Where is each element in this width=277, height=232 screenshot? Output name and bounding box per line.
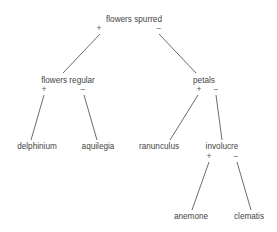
node-anemone[interactable]: anemone [174,212,209,221]
node-delphinium[interactable]: delphinium [17,142,57,151]
node-aquilegia[interactable]: aquilegia [82,142,115,151]
node-label-anemone: anemone [174,212,209,221]
node-ranunculus[interactable]: ranunculus [139,142,179,151]
node-label-clematis: clematis [234,212,264,221]
branch-sign-minus-petals: − [214,84,219,94]
branch-sign-plus-involucre: + [207,151,212,161]
node-label-flowers-regular: flowers regular [41,76,95,85]
node-clematis[interactable]: clematis [234,212,264,221]
branch-sign-minus-involucre: − [234,151,239,161]
branch-sign-plus-flowers-regular: + [42,84,47,94]
node-label-aquilegia: aquilegia [82,142,115,151]
node-label-ranunculus: ranunculus [139,142,179,151]
diagram-background [0,0,277,232]
branch-sign-plus-petals: + [197,84,202,94]
branch-sign-minus-flowers-regular: − [81,84,86,94]
node-label-flowers-spurred: flowers spurred [106,15,162,24]
decision-tree-diagram: flowers spurred + − flowers regular + − … [0,0,277,232]
node-label-involucre: involucre [206,142,239,151]
node-label-delphinium: delphinium [17,142,57,151]
branch-sign-plus-flowers-spurred: + [97,23,102,33]
branch-sign-minus-flowers-spurred: − [157,23,162,33]
